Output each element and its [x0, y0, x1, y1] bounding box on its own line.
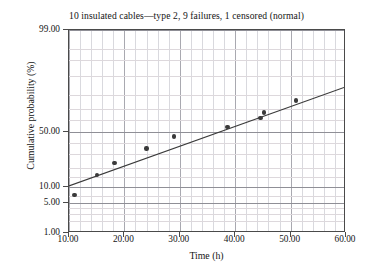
y-axis-title: Cumulative probability (%): [25, 16, 36, 216]
x-axis-title: Time (h): [68, 250, 345, 261]
x-tick-mark: [123, 232, 124, 237]
x-tick-mark: [345, 232, 346, 237]
x-axis-tick-labels: 10.0020.0030.0040.0050.0060.00: [0, 0, 373, 274]
x-tick-mark: [68, 232, 69, 237]
x-tick-mark: [234, 232, 235, 237]
x-tick-mark: [290, 232, 291, 237]
x-tick-mark: [179, 232, 180, 237]
chart-root: 10 insulated cables—type 2, 9 failures, …: [0, 0, 373, 274]
